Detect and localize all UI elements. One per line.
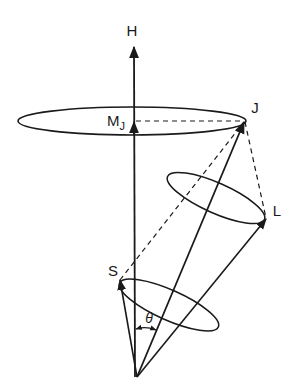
h-label: H: [127, 22, 138, 39]
mj-label-subscript: J: [120, 120, 126, 132]
theta-label: θ: [145, 310, 153, 326]
mj-label-main: M: [107, 112, 120, 129]
s-label: S: [108, 262, 118, 279]
mj-label: MJ: [107, 112, 125, 132]
s-precession-ellipse: [114, 269, 225, 340]
s-to-j-dashed: [120, 122, 244, 280]
l-label: L: [273, 202, 281, 219]
j-vector: [137, 122, 244, 377]
j-label: J: [251, 99, 259, 116]
theta-arc: [136, 328, 156, 330]
l-vector: [137, 219, 266, 377]
h-vector: [134, 47, 135, 377]
vector-coupling-diagram: H MJ J L S θ: [0, 0, 299, 388]
l-precession-ellipse: [161, 163, 270, 234]
